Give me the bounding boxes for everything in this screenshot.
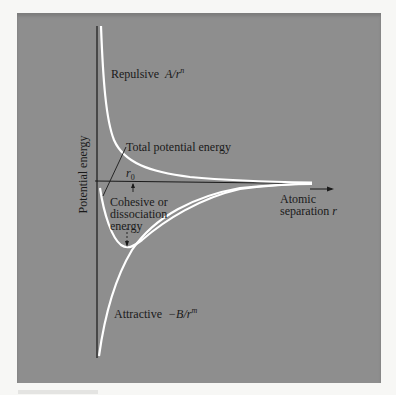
repulsive-formula: A/r — [165, 67, 180, 81]
cohesive-label: Cohesive or dissociation energy — [110, 196, 168, 232]
x-axis-label: Atomic separation r — [280, 193, 337, 217]
attractive-text: Attractive — [114, 307, 162, 321]
x-label-line2: separation — [280, 204, 329, 218]
total-leader-line — [103, 147, 126, 196]
repulsive-curve — [101, 26, 312, 183]
cohesive-line3: energy — [110, 220, 168, 232]
repulsive-text: Repulsive — [111, 67, 159, 81]
y-axis-label: Potential energy — [76, 125, 91, 225]
arrow-head-icon — [327, 187, 334, 192]
attractive-formula: −B/r — [168, 307, 191, 321]
r0-label: r0 — [126, 167, 135, 184]
x-label-var: r — [332, 204, 337, 218]
attractive-exponent: m — [191, 306, 197, 315]
repulsive-label: Repulsive A/rn — [111, 64, 184, 81]
total-potential-label: Total potential energy — [126, 141, 231, 154]
repulsive-exponent: n — [180, 66, 184, 75]
r0-sub: 0 — [131, 173, 135, 182]
cropped-caption — [18, 390, 98, 394]
attractive-label: Attractive −B/rm — [114, 304, 197, 321]
